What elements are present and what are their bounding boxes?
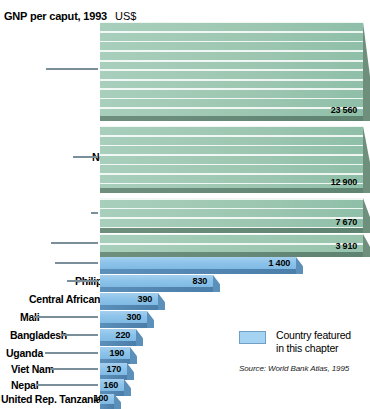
bar-blue-featured: 390 [100, 293, 158, 305]
bar-end-cap [213, 275, 220, 292]
chart-unit-label: US$ [115, 10, 136, 22]
bar-blue-featured: 160 [100, 379, 124, 391]
bar-value-label: 23 560 [329, 105, 359, 115]
bar-container: 100 [100, 394, 114, 404]
bar-end-cap [114, 394, 121, 409]
bar-blue-featured: 190 [100, 347, 130, 359]
bar-container: 170 [100, 363, 127, 375]
bar-blue-featured: 220 [100, 329, 136, 341]
chart-title: GNP per caput, 1993 [4, 10, 107, 22]
bar-value-label: 12 900 [329, 177, 359, 187]
bar-bottom-bevel [100, 404, 114, 409]
bar-green: 12 900 [100, 126, 363, 188]
bar-face [100, 126, 363, 188]
bar-value-label: 1 400 [266, 258, 292, 268]
bar-face [100, 198, 363, 228]
bar-container: 7 670 [100, 198, 363, 228]
bar-blue-featured: 100 [100, 394, 114, 404]
bar-bottom-bevel [100, 341, 136, 346]
bar-end-cap [127, 363, 134, 380]
bar-value-label: 3 910 [333, 241, 359, 251]
bar-end-cap [363, 22, 370, 121]
bar-container: 23 560 [100, 22, 363, 116]
bar-container: 220 [100, 329, 136, 341]
bar-value-label: 170 [105, 364, 123, 374]
bar-value-label: 830 [191, 276, 209, 286]
country-label: Viet Nam [11, 364, 54, 375]
bar-end-cap [147, 311, 154, 328]
legend-swatch-featured [239, 331, 266, 344]
leader-line [73, 156, 98, 158]
bar-bottom-bevel [100, 287, 213, 292]
country-label: Bangladesh [10, 330, 67, 341]
bar-value-label: 190 [108, 348, 126, 358]
bar-green: 7 670 [100, 198, 363, 228]
bar-value-label: 160 [102, 380, 120, 390]
leader-line [62, 334, 98, 336]
bar-end-cap [136, 329, 143, 346]
bar-container: 1 400 [100, 257, 296, 269]
legend-label-line1: Country featured [276, 329, 351, 341]
bar-blue-featured: 170 [100, 363, 127, 375]
bar-bottom-bevel [100, 188, 363, 193]
source-note: Source: World Bank Atlas, 1995 [239, 364, 349, 373]
bar-value-label: 220 [114, 330, 132, 340]
bar-end-cap [363, 234, 370, 257]
leader-line [67, 280, 98, 282]
bar-value-label: 100 [92, 393, 110, 403]
bar-blue-featured: 300 [100, 311, 147, 323]
country-label: United Rep. Tanzania [1, 394, 101, 405]
leader-line [51, 242, 98, 244]
bar-container: 160 [100, 379, 124, 391]
bar-face [100, 22, 363, 116]
leader-line [45, 352, 98, 354]
bar-container: 3 910 [100, 234, 363, 252]
leader-line [36, 384, 98, 386]
leader-line [50, 368, 98, 370]
legend-label: Country featured in this chapter [276, 329, 351, 355]
bar-end-cap [363, 126, 370, 193]
bar-bottom-bevel [100, 269, 296, 274]
country-label: Uganda [6, 348, 43, 359]
leader-line [46, 68, 98, 70]
leader-line [91, 212, 98, 214]
bar-end-cap [158, 293, 165, 310]
bar-green: 23 560 [100, 22, 363, 116]
bar-container: 300 [100, 311, 147, 323]
bar-bottom-bevel [100, 323, 147, 328]
bar-bottom-bevel [100, 305, 158, 310]
bar-value-label: 390 [136, 294, 154, 304]
bar-container: 12 900 [100, 126, 363, 188]
country-label: Nepal [11, 380, 38, 391]
bar-container: 390 [100, 293, 158, 305]
bar-end-cap [363, 198, 370, 233]
bar-container: 830 [100, 275, 213, 287]
bar-value-label: 300 [125, 312, 143, 322]
bar-green: 3 910 [100, 234, 363, 252]
leader-line [33, 316, 98, 318]
bar-end-cap [124, 379, 131, 396]
bar-blue-featured: 830 [100, 275, 213, 287]
bar-end-cap [130, 347, 137, 364]
leader-line [55, 262, 98, 264]
bar-bottom-bevel [100, 116, 363, 121]
bar-value-label: 7 670 [333, 217, 359, 227]
bar-blue-featured: 1 400 [100, 257, 296, 269]
bar-container: 190 [100, 347, 130, 359]
bar-face [100, 234, 363, 252]
legend-label-line2: in this chapter [276, 342, 338, 354]
bar-end-cap [296, 257, 303, 274]
bar-bottom-bevel [100, 228, 363, 233]
